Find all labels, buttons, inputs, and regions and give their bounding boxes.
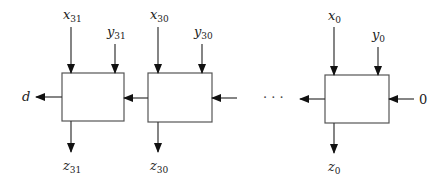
y30-label: y30 [193,24,213,41]
x31-label: x31 [63,7,82,24]
y31-label: y31 [106,24,126,41]
x0-label: x0 [328,8,341,25]
z30-label: z30 [149,158,169,175]
d-label: d [22,89,30,104]
z0-label: z0 [327,159,341,176]
carry-in-zero-label: 0 [419,92,427,107]
cell-31: x31 y31 z31 d [22,7,126,175]
cell-31-box [62,73,124,121]
z31-label: z31 [62,158,81,175]
cell-30-box [148,73,212,122]
cell-30: x30 y30 z30 [124,7,237,175]
x30-label: x30 [150,7,169,24]
y0-label: y0 [371,27,385,44]
cell-0: x0 y0 z0 0 [300,8,427,176]
ellipsis: · · · [263,90,284,105]
ripple-chain-diagram: x31 y31 z31 d x30 y30 z30 · · · x0 y0 z0… [0,0,448,183]
cell-0-box [325,75,389,123]
